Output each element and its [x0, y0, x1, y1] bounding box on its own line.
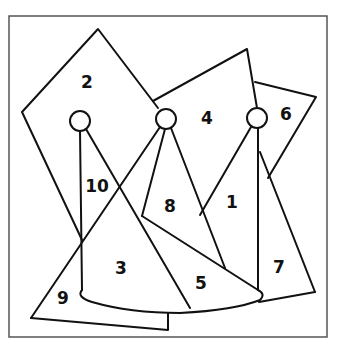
label-1: 1 [226, 192, 238, 212]
label-3: 3 [115, 258, 127, 278]
label-9: 9 [57, 288, 69, 308]
hat-brim [80, 290, 262, 313]
left-circle [70, 111, 90, 131]
left-hat-right-edge [86, 129, 190, 308]
label-2: 2 [81, 72, 93, 92]
triangle-9-base [31, 313, 168, 330]
right-circle [247, 108, 267, 128]
label-8: 8 [164, 196, 176, 216]
puzzle-canvas: 1 2 3 4 5 6 7 8 9 10 [0, 0, 338, 356]
label-6: 6 [280, 104, 292, 124]
middle-hat-inner-edge [142, 129, 165, 216]
label-7: 7 [273, 257, 285, 277]
quad-4-shape [153, 49, 257, 108]
label-4: 4 [201, 108, 213, 128]
label-5: 5 [195, 273, 207, 293]
label-10: 10 [85, 176, 109, 196]
right-hat-right-edge [260, 152, 315, 292]
middle-circle [156, 109, 176, 129]
middle-hat-right-edge [171, 128, 225, 268]
left-hat-stem [80, 131, 82, 290]
right-hat-bottom [259, 292, 315, 302]
